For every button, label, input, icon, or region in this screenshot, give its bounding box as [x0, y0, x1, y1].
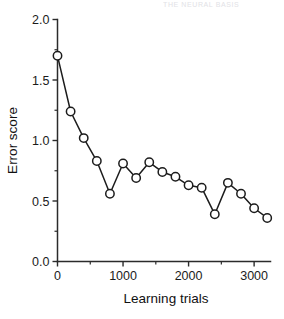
- y-tick-label: 2.0: [32, 13, 49, 27]
- data-point-marker: 800, 0.56: [106, 190, 114, 198]
- data-point-marker: 2800, 0.56: [237, 190, 245, 198]
- chart-tick-labels: 0.00.51.01.52.00100020003000: [32, 13, 268, 283]
- x-tick-label: 2000: [175, 269, 203, 283]
- data-point-marker: 1600, 0.74: [158, 168, 166, 176]
- x-tick-label: 0: [54, 269, 61, 283]
- data-point-marker: 2600, 0.65: [224, 179, 232, 187]
- y-tick-label: 1.0: [32, 134, 49, 148]
- data-point-marker: 200, 1.24: [66, 107, 74, 115]
- data-point-marker: 1400, 0.82: [145, 158, 153, 166]
- y-tick-label: 0.0: [32, 255, 49, 269]
- y-tick-label: 1.5: [32, 74, 49, 88]
- chart-ticks: [53, 20, 255, 267]
- data-point-marker: 2000, 0.63: [184, 181, 192, 189]
- x-tick-label: 1000: [109, 269, 137, 283]
- data-point-marker: 600, 0.83: [93, 157, 101, 165]
- data-point-marker: 1800, 0.7: [171, 173, 179, 181]
- y-axis-title: Error score: [5, 107, 20, 174]
- x-tick-label: 3000: [240, 269, 268, 283]
- data-point-marker: 3000, 0.44: [250, 204, 258, 212]
- data-point-marker: 3200, 0.36: [263, 214, 271, 222]
- data-point-marker: 2200, 0.61: [197, 183, 205, 191]
- data-line: [58, 56, 268, 218]
- chart-axes: [58, 20, 271, 262]
- data-point-marker: 0, 1.7: [53, 52, 61, 60]
- x-axis-title: Learning trials: [124, 291, 209, 306]
- data-point-marker: 400, 1.02: [80, 134, 88, 142]
- chart-series: 0, 1.7200, 1.24400, 1.02600, 0.83800, 0.…: [53, 52, 271, 223]
- line-chart: 0.00.51.01.52.00100020003000 0, 1.7200, …: [0, 0, 284, 319]
- y-tick-label: 0.5: [32, 195, 49, 209]
- data-point-marker: 2400, 0.39: [211, 210, 219, 218]
- data-point-marker: 1200, 0.69: [132, 174, 140, 182]
- chart-figure: THE NEURAL BASIS 0.00.51.01.52.001000200…: [0, 0, 284, 319]
- data-point-marker: 1000, 0.81: [119, 159, 127, 167]
